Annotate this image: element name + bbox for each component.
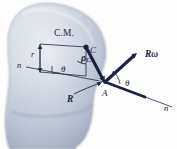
label-point-a: A	[102, 89, 108, 98]
label-vector-R: R	[67, 95, 73, 105]
label-vector-rho: ρCA	[81, 53, 94, 63]
label-radius-small: r	[31, 50, 34, 59]
label-axis-n-right: n	[164, 104, 168, 113]
label-axis-n-left: n	[17, 61, 21, 70]
point-A-marker	[103, 80, 107, 84]
label-vector-R-omega: Rω	[145, 50, 158, 60]
vectors-layer	[0, 0, 177, 149]
vector-R-omega	[105, 53, 137, 82]
point-C-marker	[83, 44, 88, 49]
label-center-of-mass: C.M.	[54, 29, 74, 39]
label-theta-left: θ	[61, 65, 65, 74]
figure-canvas: C.M. C A r ρCA R Rω n n θ θ	[0, 0, 177, 149]
label-rho-subscript: CA	[86, 57, 94, 63]
label-theta-right: θ	[125, 79, 129, 88]
